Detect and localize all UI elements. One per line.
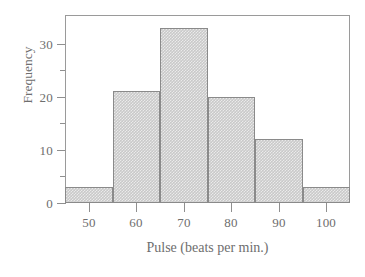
histogram-bar [303, 187, 351, 203]
x-axis-tick [326, 203, 327, 212]
y-axis-tick [57, 203, 66, 204]
y-axis-tick-label: 30 [13, 38, 53, 51]
histogram-figure: Frequency 0102030 5060708090100 Pulse (b… [0, 0, 365, 277]
histogram-bar [65, 187, 113, 203]
x-axis-tick-label: 50 [67, 216, 111, 230]
x-axis-tick [184, 203, 185, 212]
histogram-bar [113, 91, 161, 203]
y-axis-tick-label: 0 [13, 197, 53, 210]
x-axis-tick-label: 70 [162, 216, 206, 230]
y-axis-tick-label: 10 [13, 144, 53, 157]
histogram-bar [255, 139, 303, 203]
x-axis-tick-label: 90 [257, 216, 301, 230]
bar-series [66, 16, 350, 203]
x-axis-tick-label: 100 [304, 216, 348, 230]
x-axis-title: Pulse (beats per min.) [65, 240, 350, 256]
x-axis-tick [136, 203, 137, 212]
x-axis-tick-label: 60 [114, 216, 158, 230]
y-axis-tick-label: 20 [13, 91, 53, 104]
x-axis-tick-label: 80 [209, 216, 253, 230]
x-axis-tick [231, 203, 232, 212]
x-axis-tick [279, 203, 280, 212]
x-axis-tick [89, 203, 90, 212]
histogram-bar [160, 28, 208, 203]
histogram-bar [208, 97, 256, 203]
